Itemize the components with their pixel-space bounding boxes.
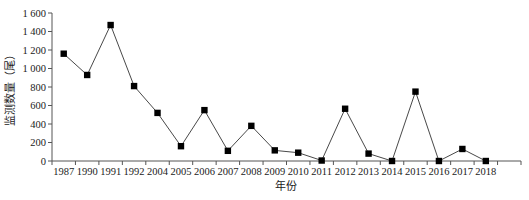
x-tick-label: 1990 [77, 166, 98, 177]
x-tick-label: 2012 [335, 166, 356, 177]
data-point-marker [107, 22, 113, 28]
y-tick-label: 800 [30, 82, 46, 93]
x-tick-label: 2007 [217, 166, 238, 177]
y-tick-label: 1 400 [22, 26, 46, 37]
x-tick-label: 2009 [264, 166, 285, 177]
data-point-marker [84, 72, 90, 78]
data-point-marker [248, 123, 254, 129]
data-point-marker [389, 158, 395, 164]
y-axis: 02004006008001 0001 2001 4001 600 [22, 8, 52, 167]
x-tick-label: 2005 [170, 166, 191, 177]
x-axis: 1987199019911992200420052006200720082009… [52, 161, 521, 177]
x-tick-label: 2016 [428, 166, 449, 177]
x-axis-title: 年份 [275, 179, 297, 193]
x-tick-label: 2013 [358, 166, 379, 177]
x-tick-label: 2004 [147, 166, 169, 177]
x-tick-label: 2010 [288, 166, 309, 177]
data-point-marker [365, 150, 371, 156]
y-tick-label: 600 [30, 100, 46, 111]
x-tick-label: 1991 [100, 166, 121, 177]
data-point-marker [483, 158, 489, 164]
data-point-marker [342, 106, 348, 112]
y-tick-label: 400 [30, 119, 46, 130]
y-tick-label: 200 [30, 137, 46, 148]
y-axis-title: 监测数量（尾） [4, 49, 17, 126]
y-tick-label: 0 [41, 156, 46, 167]
x-tick-label: 1987 [53, 166, 74, 177]
data-point-marker [178, 143, 184, 149]
data-point-marker [61, 51, 67, 57]
data-series [61, 22, 490, 164]
data-point-marker [201, 107, 207, 113]
x-tick-label: 2014 [382, 166, 404, 177]
x-tick-label: 1992 [124, 166, 145, 177]
x-tick-label: 2015 [405, 166, 426, 177]
x-tick-label: 2018 [475, 166, 496, 177]
data-point-marker [459, 146, 465, 152]
data-point-marker [225, 148, 231, 154]
data-point-marker [412, 88, 418, 94]
x-tick-label: 2011 [311, 166, 332, 177]
y-tick-label: 1 000 [22, 63, 46, 74]
series-line [64, 25, 486, 161]
data-point-marker [295, 149, 301, 155]
x-tick-label: 2006 [194, 166, 215, 177]
line-chart: 02004006008001 0001 2001 4001 600 198719… [0, 0, 529, 200]
y-tick-label: 1 600 [22, 8, 46, 19]
data-point-marker [436, 158, 442, 164]
data-point-marker [318, 157, 324, 163]
data-point-marker [131, 83, 137, 89]
x-tick-label: 2008 [241, 166, 262, 177]
y-tick-label: 1 200 [22, 45, 46, 56]
data-point-marker [272, 147, 278, 153]
x-tick-label: 2017 [452, 166, 473, 177]
data-point-marker [154, 110, 160, 116]
